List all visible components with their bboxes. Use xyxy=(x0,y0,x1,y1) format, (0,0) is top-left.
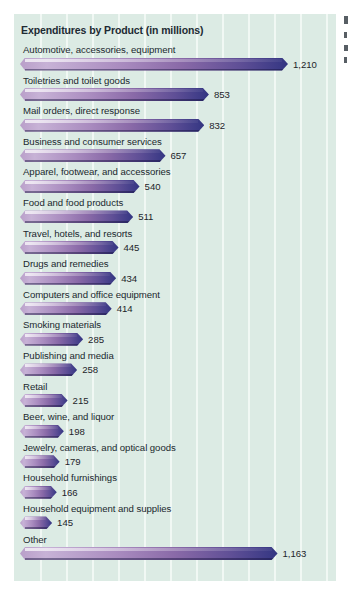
bar-container: 215 xyxy=(20,394,88,407)
bar-shadow xyxy=(25,221,130,223)
bar xyxy=(20,516,52,529)
chart-bar-row: Smoking materials285 xyxy=(14,319,336,350)
text-fragment xyxy=(344,32,347,38)
bar-highlight xyxy=(25,273,110,276)
text-fragment xyxy=(344,57,347,63)
bar-category-label: Computers and office equipment xyxy=(23,289,160,300)
bar-container: 145 xyxy=(20,516,73,529)
bar-value-label: 285 xyxy=(88,334,104,345)
bar xyxy=(20,333,83,346)
bar-shadow xyxy=(25,374,74,376)
bar-value-label: 511 xyxy=(138,211,153,222)
chart-bar-row: Travel, hotels, and resorts445 xyxy=(14,228,336,259)
chart-panel: Expenditures by Product (in millions) Au… xyxy=(14,14,336,581)
bar-category-label: Retail xyxy=(23,381,47,392)
bar-shadow xyxy=(25,558,275,560)
bar-value-label: 179 xyxy=(65,456,81,467)
bar-container: 445 xyxy=(20,241,139,254)
bar-category-label: Beer, wine, and liquor xyxy=(23,411,114,422)
bar-category-label: Apparel, footwear, and accessories xyxy=(23,166,171,177)
bar-highlight xyxy=(25,59,282,62)
clipped-adjacent-text-column xyxy=(344,14,354,94)
bar-category-label: Household furnishings xyxy=(23,472,117,483)
bar-container: 657 xyxy=(20,149,186,162)
bar-container: 853 xyxy=(20,88,230,101)
bar-highlight xyxy=(25,395,62,398)
bar-value-label: 445 xyxy=(124,242,140,253)
bar-container: 540 xyxy=(20,180,160,193)
text-fragment xyxy=(344,45,348,51)
bar-category-label: Mail orders, direct response xyxy=(23,105,140,116)
bar-value-label: 145 xyxy=(57,517,73,528)
bar xyxy=(20,547,278,560)
bar xyxy=(20,455,60,468)
bar-highlight xyxy=(25,548,272,551)
bar-shadow xyxy=(25,252,116,254)
bar xyxy=(20,425,64,438)
bar-value-label: 540 xyxy=(145,181,161,192)
bar-category-label: Other xyxy=(23,534,47,545)
chart-bar-row: Apparel, footwear, and accessories540 xyxy=(14,166,336,197)
bar-category-label: Jewelry, cameras, and optical goods xyxy=(23,442,176,453)
bar-container: 285 xyxy=(20,333,104,346)
bar-category-label: Smoking materials xyxy=(23,319,101,330)
bar-highlight xyxy=(25,303,106,306)
chart-bar-row: Household furnishings166 xyxy=(14,472,336,503)
bar-highlight xyxy=(25,487,51,490)
bar-shadow xyxy=(25,527,49,529)
bar-highlight xyxy=(25,242,113,245)
bar-highlight xyxy=(25,426,58,429)
bar-category-label: Business and consumer services xyxy=(23,136,162,147)
bar-shadow xyxy=(25,191,137,193)
bar-shadow xyxy=(25,283,113,285)
chart-bar-row: Other1,163 xyxy=(14,534,336,565)
bar-container: 414 xyxy=(20,302,133,315)
chart-bar-row: Automotive, accessories, equipment1,210 xyxy=(14,44,336,75)
bar-highlight xyxy=(25,211,127,214)
bar-shadow xyxy=(25,160,163,162)
bar xyxy=(20,180,140,193)
bar xyxy=(20,58,288,71)
bar-shadow xyxy=(25,344,80,346)
text-fragment xyxy=(344,16,348,24)
bar-value-label: 414 xyxy=(117,303,133,314)
bar-highlight xyxy=(25,364,71,367)
bar-shadow xyxy=(25,313,109,315)
bar-highlight xyxy=(25,456,54,459)
bar-container: 166 xyxy=(20,486,78,499)
bar-value-label: 1,163 xyxy=(283,548,307,559)
bar-value-label: 166 xyxy=(62,487,78,498)
chart-bar-row: Retail215 xyxy=(14,381,336,412)
chart-bar-row: Beer, wine, and liquor198 xyxy=(14,411,336,442)
bar xyxy=(20,119,204,132)
bar-container: 258 xyxy=(20,363,98,376)
bar-container: 1,210 xyxy=(20,58,317,71)
bar-value-label: 853 xyxy=(214,89,230,100)
bar-highlight xyxy=(25,89,203,92)
bar-category-label: Publishing and media xyxy=(23,350,114,361)
bar xyxy=(20,210,133,223)
bar-highlight xyxy=(25,517,46,520)
chart-bar-row: Publishing and media258 xyxy=(14,350,336,381)
chart-title: Expenditures by Product (in millions) xyxy=(21,24,203,36)
chart-bar-row: Drugs and remedies434 xyxy=(14,258,336,289)
bar-shadow xyxy=(25,405,65,407)
bar-highlight xyxy=(25,181,134,184)
bar-value-label: 657 xyxy=(171,150,187,161)
bar-container: 179 xyxy=(20,455,81,468)
bar xyxy=(20,149,166,162)
bar-shadow xyxy=(25,69,285,71)
chart-bar-row: Business and consumer services657 xyxy=(14,136,336,167)
bar xyxy=(20,241,119,254)
bar-container: 511 xyxy=(20,210,153,223)
chart-bar-rows: Automotive, accessories, equipment1,210T… xyxy=(14,44,336,564)
chart-bar-row: Computers and office equipment414 xyxy=(14,289,336,320)
bar-highlight xyxy=(25,334,77,337)
bar-shadow xyxy=(25,466,57,468)
bar xyxy=(20,363,77,376)
bar-container: 832 xyxy=(20,119,225,132)
bar-shadow xyxy=(25,99,206,101)
bar-highlight xyxy=(25,150,160,153)
bar-category-label: Toiletries and toilet goods xyxy=(23,75,130,86)
bar-category-label: Automotive, accessories, equipment xyxy=(23,44,175,55)
